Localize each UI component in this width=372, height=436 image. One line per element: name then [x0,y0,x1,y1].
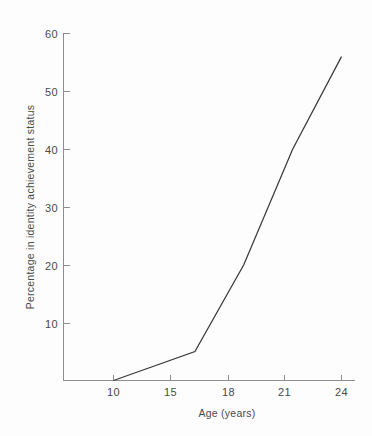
x-tick-label-18: 18 [222,386,235,398]
y-tick-label-20: 20 [45,260,58,272]
y-tick-label-10: 10 [45,318,58,330]
series-line-identity-achievement [114,57,342,381]
figure-container: 60 50 40 30 20 10 10 15 18 21 24 Age (ye… [0,0,372,436]
y-tick-label-30: 30 [45,202,58,214]
x-tick-marks [114,375,342,381]
y-tick-label-60: 60 [45,28,58,40]
y-tick-labels: 60 50 40 30 20 10 [45,28,58,330]
y-tick-label-50: 50 [45,86,58,98]
line-chart: 60 50 40 30 20 10 10 15 18 21 24 Age (ye… [0,0,372,436]
x-axis-title: Age (years) [198,407,255,419]
x-tick-label-21: 21 [278,386,291,398]
y-tick-label-40: 40 [45,144,58,156]
x-tick-label-24: 24 [335,386,348,398]
x-tick-labels: 10 15 18 21 24 [107,386,348,398]
y-axis-title: Percentage in identity achievement statu… [24,105,36,310]
x-tick-label-10: 10 [107,386,120,398]
x-tick-label-15: 15 [164,386,177,398]
y-tick-marks [64,34,70,324]
